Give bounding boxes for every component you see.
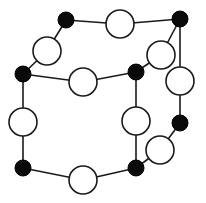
black-atom-b6 [128, 160, 144, 176]
white-atom-w4 [69, 68, 97, 96]
white-atom-w7 [122, 107, 150, 135]
white-atom-w6 [9, 108, 37, 136]
black-atom-b4 [128, 64, 144, 80]
black-atom-b7 [172, 115, 188, 131]
black-atom-b1 [58, 12, 74, 28]
white-atom-w8 [69, 166, 97, 194]
white-atom-w2 [106, 10, 134, 38]
black-atom-b5 [15, 160, 31, 176]
atom-nodes [9, 10, 194, 194]
white-atom-w9 [146, 136, 174, 164]
white-atom-w1 [33, 37, 61, 65]
white-atom-w5 [166, 67, 194, 95]
white-atom-w3 [147, 41, 175, 69]
black-atom-b2 [172, 11, 188, 27]
black-atom-b3 [15, 66, 31, 82]
cage-structure-diagram [0, 0, 206, 203]
